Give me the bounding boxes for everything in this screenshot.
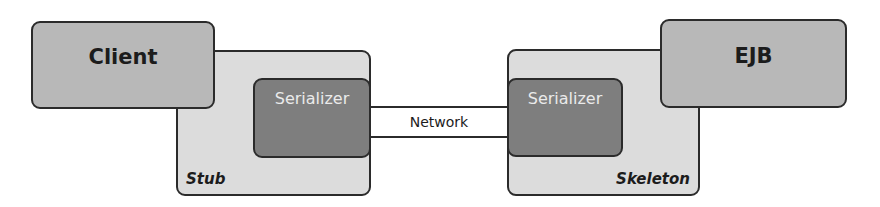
client-label: Client bbox=[88, 45, 157, 69]
ejb-box: EJB bbox=[660, 19, 847, 108]
skeleton-serializer-label: Serializer bbox=[528, 89, 603, 155]
stub-serializer-label: Serializer bbox=[275, 89, 350, 156]
skeleton-serializer-box: Serializer bbox=[507, 78, 623, 157]
skeleton-label: Skeleton bbox=[616, 170, 690, 188]
stub-label: Stub bbox=[186, 170, 225, 188]
network-channel: Network bbox=[370, 106, 508, 138]
client-box: Client bbox=[31, 21, 215, 109]
network-label: Network bbox=[410, 114, 468, 130]
stub-serializer-box: Serializer bbox=[253, 78, 371, 158]
ejb-label: EJB bbox=[734, 44, 772, 68]
